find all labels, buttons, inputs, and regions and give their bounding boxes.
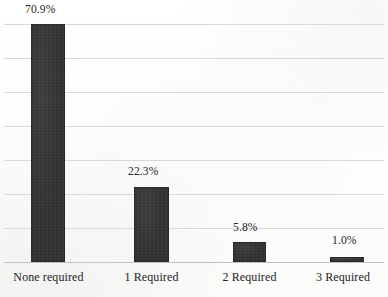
value-label-3-required: 1.0% (332, 234, 357, 247)
bar-2-required (233, 242, 266, 262)
value-label-none-required: 70.9% (25, 3, 55, 16)
category-label-1-required: 1 Required (103, 270, 200, 284)
value-label-2-required: 5.8% (233, 221, 258, 234)
bar-chart: 70.9% 22.3% 5.8% 1.0% None required 1 Re… (0, 0, 388, 297)
plot-area: 70.9% 22.3% 5.8% 1.0% None required 1 Re… (0, 0, 388, 297)
category-label-2-required: 2 Required (201, 270, 298, 284)
value-label-1-required: 22.3% (128, 165, 158, 178)
category-label-3-required: 3 Required (298, 270, 388, 284)
bar-1-required (134, 187, 169, 262)
bar-3-required (330, 257, 364, 262)
bar-none-required (31, 24, 65, 262)
axis-baseline (4, 262, 384, 263)
category-label-none-required: None required (0, 270, 97, 284)
